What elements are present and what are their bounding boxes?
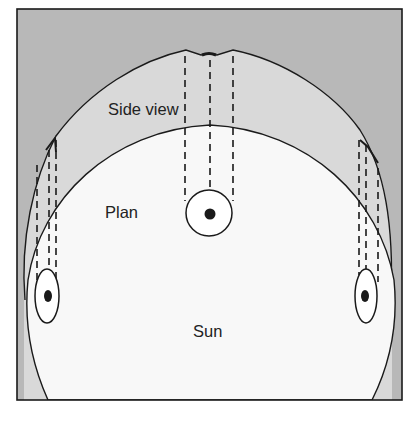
- left-body: [35, 269, 59, 323]
- right-body: [355, 269, 377, 323]
- diagram-canvas: Side view Plan Sun: [0, 0, 411, 422]
- plan-label: Plan: [105, 203, 138, 221]
- diagram-svg: Side view Plan Sun: [0, 0, 411, 422]
- side-view-top-notch: [202, 54, 216, 56]
- side-view-label: Side view: [108, 100, 179, 118]
- sun-label: Sun: [193, 322, 222, 340]
- center-body-dot: [205, 209, 216, 220]
- center-body: [186, 190, 232, 236]
- left-body-dot: [44, 290, 52, 302]
- right-body-dot: [361, 290, 369, 302]
